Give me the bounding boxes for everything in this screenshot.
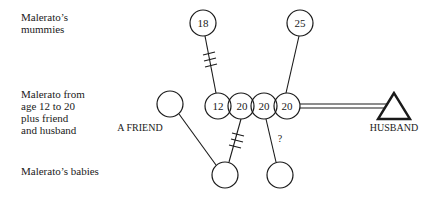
mummy-18-label: 18 <box>198 17 210 29</box>
malerato-age-20-label-3: 20 <box>282 100 294 112</box>
link-malerato-to-baby2 <box>266 119 276 162</box>
husband-label: HUSBAND <box>370 122 418 133</box>
link-mummy25-to-malerato20 <box>286 36 299 93</box>
baby-1-node <box>212 162 238 188</box>
baby-2-node <box>267 162 293 188</box>
kinship-diagram: 18 25 12 20 20 20 ? A FRIEND HUSBAND <box>0 0 438 197</box>
malerato-age-20-label-2: 20 <box>259 100 271 112</box>
link-friend-to-baby1 <box>179 114 216 165</box>
husband-triangle-icon <box>378 93 410 119</box>
friend-label: A FRIEND <box>117 122 162 133</box>
malerato-age-12-label: 12 <box>213 100 224 112</box>
mummy-25-label: 25 <box>295 17 307 29</box>
uncertain-link-label: ? <box>278 133 283 144</box>
malerato-age-20-label-1: 20 <box>237 100 249 112</box>
friend-node <box>157 91 183 117</box>
